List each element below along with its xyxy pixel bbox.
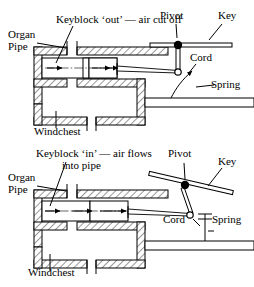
pipe-opening-bottom xyxy=(67,184,77,198)
keyblock-in xyxy=(42,201,128,221)
keyblock-out xyxy=(42,58,117,78)
diagram-linework xyxy=(0,0,254,287)
spring-straight-bottom xyxy=(198,214,212,241)
label-organ-bottom: Organ xyxy=(8,172,35,184)
label-cord-bottom: Cord xyxy=(163,214,185,226)
pivot-point-bottom xyxy=(181,181,189,189)
label-key-top: Key xyxy=(218,10,236,22)
label-windchest-bottom: Windchest xyxy=(28,267,75,279)
label-pipe-top: Pipe xyxy=(8,41,28,53)
label-pivot-top: Pivot xyxy=(160,10,183,22)
label-key-bottom: Key xyxy=(218,156,236,168)
pipe-opening-top xyxy=(67,41,77,55)
spring-bar-bottom xyxy=(145,241,254,250)
label-pipe-bottom: Pipe xyxy=(8,184,28,196)
connecting-rod-top xyxy=(110,63,178,75)
spring-bar-top xyxy=(145,98,254,107)
label-cord-top: Cord xyxy=(190,52,212,64)
label-pivot-bottom: Pivot xyxy=(168,148,191,160)
label-organ-top: Organ xyxy=(8,29,35,41)
windchest-opening-top xyxy=(87,117,96,131)
pivot-post-top xyxy=(174,41,182,72)
cord-joint-top xyxy=(175,69,181,75)
label-spring-top: Spring xyxy=(211,79,240,91)
windchest-opening-bottom xyxy=(87,260,96,274)
key-lever-top xyxy=(150,43,232,47)
figure-canvas: Keyblock ‘out’ — air cut off Organ Pipe … xyxy=(0,0,254,287)
pivot-link-bottom xyxy=(181,181,193,215)
spring-curve-top xyxy=(171,71,192,98)
pivot-point-top xyxy=(174,41,182,49)
caption-keyblock-in-line1: Keyblock ‘in’ — air flows xyxy=(36,148,152,160)
cord-joint-bottom xyxy=(187,212,193,218)
label-windchest-top: Windchest xyxy=(34,126,81,138)
label-spring-bottom: Spring xyxy=(212,214,241,226)
caption-keyblock-in-line2: into pipe xyxy=(62,160,101,172)
